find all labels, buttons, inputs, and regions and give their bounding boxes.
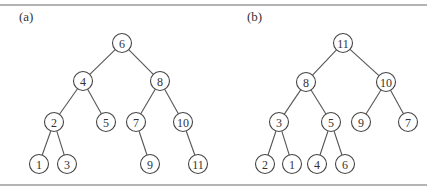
tree-edge [350, 49, 379, 75]
node-value: 5 [103, 116, 109, 130]
tree-node: 7 [399, 113, 418, 132]
tree-node: 1 [30, 155, 49, 174]
tree-edge [139, 131, 147, 155]
tree-node: 1 [283, 155, 302, 174]
tree-node: 3 [270, 113, 289, 132]
node-value: 1 [289, 158, 295, 172]
tree-node: 5 [322, 113, 341, 132]
node-value: 10 [380, 76, 392, 90]
node-value: 9 [358, 116, 364, 130]
node-value: 1 [36, 158, 42, 172]
tree-node: 9 [352, 113, 371, 132]
tree-node: 2 [256, 155, 275, 174]
tree-node: 8 [151, 72, 170, 91]
node-value: 3 [276, 116, 282, 130]
node-value: 4 [314, 158, 320, 172]
nodes-layer: 64825710139111181035972146 [30, 34, 418, 174]
node-value: 6 [342, 158, 348, 172]
tree-node: 4 [74, 72, 93, 91]
tree-edge [141, 89, 155, 114]
tree-edge [282, 131, 289, 155]
tree-edge [334, 131, 342, 155]
node-value: 2 [262, 158, 268, 172]
tree-node: 6 [336, 155, 355, 174]
tree-edge [42, 131, 51, 155]
tree-edge [59, 89, 77, 114]
tree-edge [320, 131, 328, 155]
tree-node: 10 [377, 73, 396, 92]
tree-edge [366, 90, 381, 114]
tree-edge [88, 89, 102, 113]
tree-edge [129, 50, 154, 75]
node-value: 7 [133, 116, 139, 130]
tree-node: 5 [97, 113, 116, 132]
node-value: 9 [147, 158, 153, 172]
tree-node: 9 [141, 155, 160, 174]
node-value: 11 [337, 37, 349, 51]
tree-node: 7 [127, 113, 146, 132]
tree-node: 6 [113, 34, 132, 53]
node-value: 4 [80, 75, 86, 89]
tree-node: 4 [308, 155, 327, 174]
tree-edge [165, 89, 179, 113]
tree-edge [391, 90, 404, 113]
tree-edge [284, 90, 300, 114]
tree-node: 2 [45, 113, 64, 132]
node-value: 7 [405, 116, 411, 130]
tree-edge [90, 50, 115, 75]
tree-node: 10 [174, 113, 193, 132]
node-value: 2 [51, 116, 57, 130]
node-value: 8 [303, 76, 309, 90]
node-value: 11 [192, 158, 204, 172]
node-value: 3 [64, 158, 70, 172]
tree-edge [268, 131, 276, 155]
node-value: 6 [119, 37, 125, 51]
edges-layer [42, 49, 403, 155]
node-value: 5 [328, 116, 334, 130]
tree-diagram: 64825710139111181035972146 [0, 0, 427, 191]
tree-node: 11 [334, 34, 353, 53]
tree-edge [57, 131, 64, 155]
node-value: 8 [157, 75, 163, 89]
node-value: 10 [177, 116, 189, 130]
tree-edge [186, 131, 195, 155]
tree-node: 11 [189, 155, 208, 174]
tree-edge [313, 50, 337, 75]
tree-node: 3 [58, 155, 77, 174]
tree-node: 8 [297, 73, 316, 92]
tree-edge [311, 90, 326, 114]
